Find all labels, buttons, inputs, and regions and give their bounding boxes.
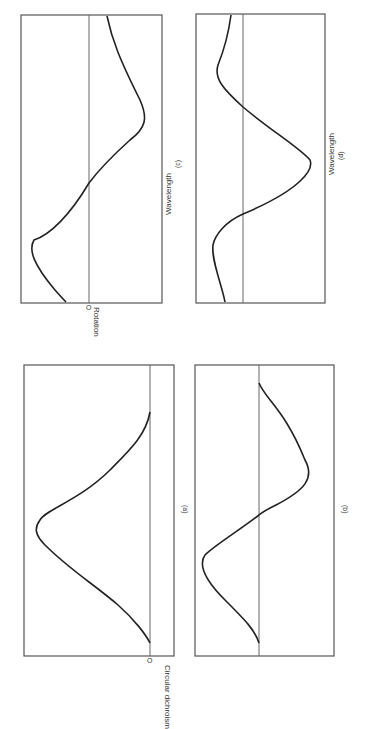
panel-d-title: (d) [337, 151, 344, 160]
panel-d-xlabel: Wavelength [327, 133, 336, 175]
panel-c-curve [32, 16, 145, 302]
panel-a-title: (a) [182, 505, 189, 514]
panel-d [196, 14, 325, 303]
panel-d-curve [213, 15, 311, 302]
panel-a-zero-label: O [147, 657, 152, 664]
panel-d-frame [196, 14, 325, 303]
panel-c-title: (c) [174, 160, 181, 168]
panel-c-zero-label: O [86, 304, 91, 311]
panel-a-frame [24, 365, 174, 656]
panel-a [24, 365, 174, 656]
panel-c-frame [21, 15, 162, 303]
panel-b-title: (b) [342, 505, 349, 514]
panel-c [21, 15, 162, 303]
panel-b-curve [202, 383, 308, 643]
panel-c-xlabel: Wavelength [164, 173, 173, 215]
panel-a-ylabel: Circular dichroism [163, 665, 172, 729]
panel-c-ylabel: Rotation [92, 307, 101, 337]
panel-a-curve [36, 412, 150, 643]
panel-b [195, 365, 334, 656]
